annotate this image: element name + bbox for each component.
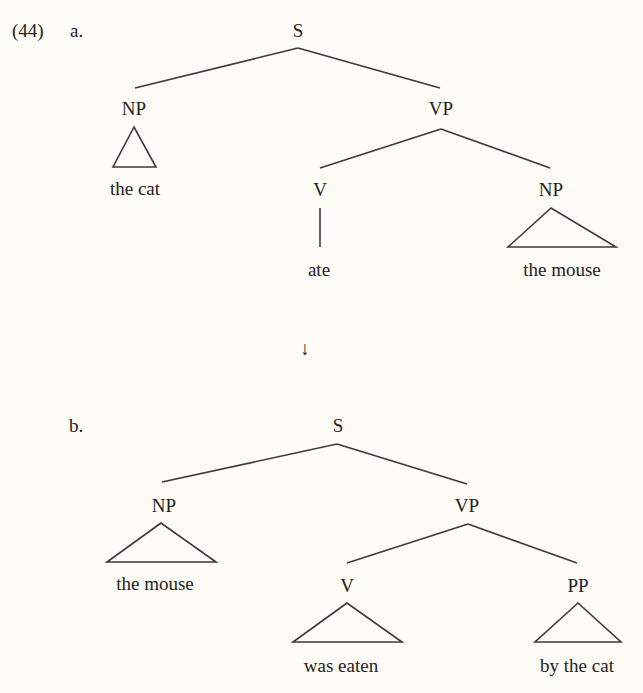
branch-line bbox=[298, 48, 440, 88]
terminal-words: by the cat bbox=[540, 655, 615, 676]
branch-line bbox=[468, 524, 577, 563]
terminal-words: was eaten bbox=[304, 655, 379, 676]
node-label-np2: NP bbox=[539, 179, 563, 200]
transformation-arrow: ↓ bbox=[300, 338, 310, 359]
node-label-np: NP bbox=[122, 98, 146, 119]
node-label-s: S bbox=[293, 20, 304, 41]
tree-a-label: a. bbox=[70, 20, 83, 41]
tree-b: SNPVPVPPthe mousewas eatenby the cat bbox=[107, 415, 621, 676]
terminal-words: the cat bbox=[110, 178, 161, 199]
node-label-vp: VP bbox=[455, 495, 479, 516]
constituent-triangle bbox=[293, 603, 402, 642]
node-label-v: V bbox=[313, 179, 327, 200]
terminal-words: ate bbox=[308, 259, 330, 280]
constituent-triangle bbox=[535, 603, 621, 642]
example-number: (44) bbox=[12, 20, 44, 42]
branch-line bbox=[441, 129, 550, 168]
constituent-triangle bbox=[113, 127, 156, 167]
syntax-tree-diagram: (44) a. b. ↓ SNPVPVNPthe catatethe mouse… bbox=[0, 0, 643, 693]
branch-line bbox=[135, 48, 298, 88]
tree-a: SNPVPVNPthe catatethe mouse bbox=[110, 20, 616, 280]
branch-line bbox=[162, 444, 337, 482]
terminal-words: the mouse bbox=[523, 259, 601, 280]
node-label-vp: VP bbox=[429, 98, 453, 119]
constituent-triangle bbox=[508, 208, 616, 247]
node-label-v: V bbox=[340, 575, 354, 596]
branch-line bbox=[320, 129, 441, 168]
constituent-triangle bbox=[107, 523, 216, 562]
node-label-np: NP bbox=[152, 495, 176, 516]
node-label-pp: PP bbox=[567, 575, 588, 596]
node-label-s: S bbox=[333, 415, 344, 436]
terminal-words: the mouse bbox=[116, 573, 194, 594]
branch-line bbox=[337, 444, 467, 484]
branch-line bbox=[347, 524, 468, 563]
tree-b-label: b. bbox=[69, 415, 83, 436]
